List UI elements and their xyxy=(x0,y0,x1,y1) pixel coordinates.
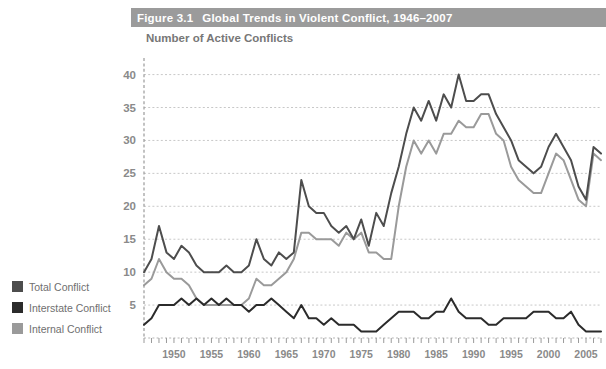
figure-title-bar: Figure 3.1 Global Trends in Violent Conf… xyxy=(131,8,606,27)
x-tick-label: 1995 xyxy=(499,348,522,360)
figure-title: Global Trends in Violent Conflict, 1946–… xyxy=(202,12,452,24)
y-tick-label: 10 xyxy=(112,266,136,278)
x-tick-label: 1950 xyxy=(162,348,185,360)
x-tick-label: 2000 xyxy=(537,348,560,360)
legend-swatch-total xyxy=(12,281,23,292)
y-tick-label: 20 xyxy=(112,200,136,212)
plot-area: 5101520253035401950195519601965197019751… xyxy=(143,55,603,343)
x-tick-label: 1980 xyxy=(387,348,410,360)
x-tick-label: 1955 xyxy=(200,348,223,360)
y-axis-title: Number of Active Conflicts xyxy=(146,32,293,44)
x-tick-label: 1960 xyxy=(237,348,260,360)
x-tick-label: 2005 xyxy=(574,348,597,360)
legend-label-internal: Internal Conflict xyxy=(29,323,102,335)
series-line-internal-conflict xyxy=(144,114,601,305)
legend-label-total: Total Conflict xyxy=(29,281,89,293)
legend-item-total: Total Conflict xyxy=(12,276,111,297)
y-tick-label: 35 xyxy=(112,102,136,114)
x-tick-label: 1990 xyxy=(462,348,485,360)
figure-number: Figure 3.1 xyxy=(137,12,193,24)
legend-item-interstate: Interstate Conflict xyxy=(12,297,111,318)
chart-svg xyxy=(143,55,603,343)
y-tick-label: 30 xyxy=(112,134,136,146)
figure-container: Figure 3.1 Global Trends in Violent Conf… xyxy=(0,0,606,369)
y-tick-label: 5 xyxy=(112,299,136,311)
legend-label-interstate: Interstate Conflict xyxy=(29,302,111,314)
legend-swatch-interstate xyxy=(12,302,23,313)
y-tick-label: 15 xyxy=(112,233,136,245)
chart-legend: Total Conflict Interstate Conflict Inter… xyxy=(12,276,111,339)
x-tick-label: 1970 xyxy=(312,348,335,360)
legend-item-internal: Internal Conflict xyxy=(12,318,111,339)
x-tick-label: 1985 xyxy=(424,348,447,360)
legend-swatch-internal xyxy=(12,323,23,334)
y-tick-label: 25 xyxy=(112,167,136,179)
y-tick-label: 40 xyxy=(112,69,136,81)
x-tick-label: 1975 xyxy=(350,348,373,360)
x-tick-label: 1965 xyxy=(275,348,298,360)
series-line-interstate-conflict xyxy=(144,298,601,331)
